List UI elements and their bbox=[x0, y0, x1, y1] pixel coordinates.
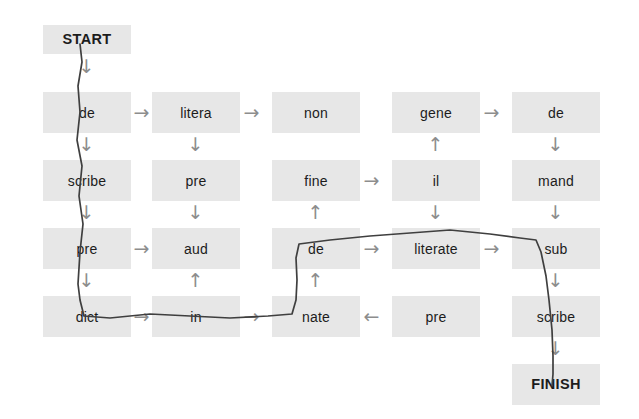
maze-cell[interactable]: pre bbox=[392, 296, 480, 337]
maze-cell[interactable]: pre bbox=[152, 160, 240, 201]
arrow-right-icon: → bbox=[131, 102, 152, 123]
arrow-right-icon: → bbox=[241, 306, 262, 327]
arrow-left-icon: ← bbox=[361, 306, 382, 327]
arrow-down-icon: ↓ bbox=[545, 134, 566, 155]
arrow-down-icon: ↓ bbox=[545, 270, 566, 291]
arrow-right-icon: → bbox=[131, 306, 152, 327]
maze-cell[interactable]: de bbox=[43, 92, 131, 133]
arrow-right-icon: → bbox=[361, 170, 382, 191]
arrow-down-icon: ↓ bbox=[545, 202, 566, 223]
maze-diagram: START deliteranongenedescribeprefineilma… bbox=[0, 0, 639, 419]
maze-cell-start[interactable]: START bbox=[43, 25, 131, 54]
arrow-down-icon: ↓ bbox=[425, 202, 446, 223]
maze-cell-finish[interactable]: FINISH bbox=[512, 364, 600, 405]
maze-cell[interactable]: mand bbox=[512, 160, 600, 201]
maze-cell[interactable]: il bbox=[392, 160, 480, 201]
maze-cell[interactable]: dict bbox=[43, 296, 131, 337]
arrow-up-icon: ↑ bbox=[305, 270, 326, 291]
arrow-up-icon: ↑ bbox=[425, 134, 446, 155]
arrow-right-icon: → bbox=[131, 238, 152, 259]
arrow-right-icon: → bbox=[361, 238, 382, 259]
maze-cell[interactable]: scribe bbox=[43, 160, 131, 201]
arrow-up-icon: ↑ bbox=[305, 202, 326, 223]
maze-cell[interactable]: gene bbox=[392, 92, 480, 133]
maze-cell[interactable]: de bbox=[272, 228, 360, 269]
maze-cell[interactable]: sub bbox=[512, 228, 600, 269]
maze-cell[interactable]: aud bbox=[152, 228, 240, 269]
maze-cell[interactable]: de bbox=[512, 92, 600, 133]
arrow-down-icon: ↓ bbox=[76, 202, 97, 223]
arrow-right-icon: → bbox=[481, 238, 502, 259]
arrow-right-icon: → bbox=[241, 102, 262, 123]
maze-cell[interactable]: nate bbox=[272, 296, 360, 337]
arrow-down-icon: ↓ bbox=[76, 270, 97, 291]
arrow-up-icon: ↑ bbox=[185, 270, 206, 291]
arrow-right-icon: → bbox=[481, 102, 502, 123]
arrow-down-icon: ↓ bbox=[185, 202, 206, 223]
maze-cell[interactable]: fine bbox=[272, 160, 360, 201]
arrow-down-icon: ↓ bbox=[76, 56, 97, 77]
maze-cell[interactable]: in bbox=[152, 296, 240, 337]
maze-cell[interactable]: literate bbox=[392, 228, 480, 269]
arrow-down-icon: ↓ bbox=[76, 134, 97, 155]
maze-cell[interactable]: pre bbox=[43, 228, 131, 269]
maze-cell[interactable]: litera bbox=[152, 92, 240, 133]
maze-cell[interactable]: non bbox=[272, 92, 360, 133]
arrow-down-icon: ↓ bbox=[185, 134, 206, 155]
arrow-down-icon: ↓ bbox=[545, 338, 566, 359]
maze-cell[interactable]: scribe bbox=[512, 296, 600, 337]
